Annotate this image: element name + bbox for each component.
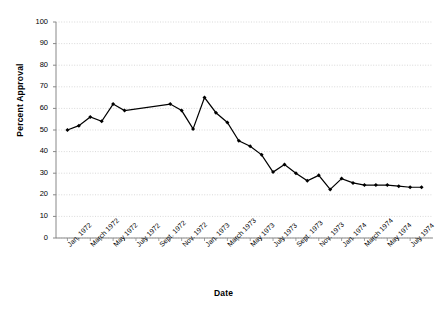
y-tick-label: 80 [26, 61, 48, 69]
y-tick-label: 40 [26, 147, 48, 155]
plot-area [0, 0, 447, 309]
y-tick-label: 90 [26, 39, 48, 47]
y-tick-label: 20 [26, 190, 48, 198]
x-axis-title: Date [0, 288, 447, 298]
y-axis-title: Percent Approval [15, 40, 25, 160]
y-tick-label: 10 [26, 212, 48, 220]
y-tick-label: 100 [26, 18, 48, 26]
y-tick-label: 60 [26, 104, 48, 112]
y-tick-label: 50 [26, 126, 48, 134]
y-tick-label: 30 [26, 169, 48, 177]
approval-line-chart: 0102030405060708090100 Jan. 1972March 19… [0, 0, 447, 309]
y-tick-label: 0 [26, 234, 48, 242]
y-tick-label: 70 [26, 82, 48, 90]
